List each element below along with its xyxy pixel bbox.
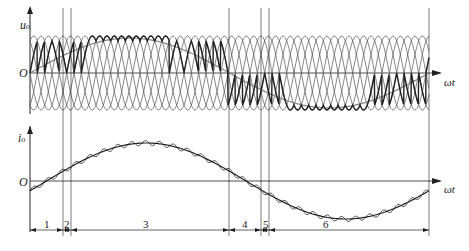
bottom-y-arrow-icon (27, 126, 33, 134)
arrowhead-icon (255, 228, 261, 232)
cycloconverter-waveform-figure: uo O ωt io O ωt 1 2 3 4 5 6 (0, 0, 469, 251)
interval-5-label: 5 (263, 218, 269, 230)
arrowhead-icon (30, 228, 36, 232)
arrowhead-icon (71, 228, 77, 232)
top-x-axis-label: ωt (444, 76, 455, 88)
top-origin-label: O (19, 67, 28, 79)
bottom-x-axis-label: ωt (444, 183, 455, 195)
arrowhead-icon (423, 228, 429, 232)
interval-6-label: 6 (323, 218, 329, 230)
top-y-arrow-icon (27, 6, 33, 14)
waveform-canvas (0, 0, 469, 251)
interval-4-label: 4 (242, 218, 248, 230)
arrowhead-icon (269, 228, 275, 232)
interval-1-label: 1 (44, 218, 50, 230)
arrowhead-icon (57, 228, 63, 232)
arrowhead-icon (223, 228, 229, 232)
arrowhead-icon (229, 228, 235, 232)
top-y-axis-label: uo (20, 19, 30, 33)
interval-2-label: 2 (64, 218, 70, 230)
bottom-origin-label: O (19, 176, 28, 188)
interval-3-label: 3 (143, 218, 149, 230)
top-x-arrow-icon (432, 70, 442, 76)
bottom-y-axis-label: io (18, 132, 25, 146)
bottom-x-arrow-icon (432, 178, 442, 184)
